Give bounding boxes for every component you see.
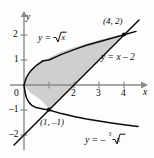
figure-container: y x 0 2 1 –1 –2 2 3 4 y = x y = x – 2 y … [0,0,154,158]
sqrt-curve-label: y = x [38,31,67,44]
cbrt-index: 3 [109,131,112,137]
sqrt-radical: x [53,31,67,44]
cbrt-radicand: x [117,136,121,144]
point-4-2 [122,32,126,36]
x-tick-label-2: 2 [71,89,76,99]
sqrt-radicand: x [61,34,65,42]
x-axis-label: x [143,88,147,98]
y-tick-label-neg1: –1 [9,105,19,115]
y-axis-label: y [26,13,30,23]
cbrt-curve-lhs: y = – [85,135,105,145]
point-label-1-neg1: (1, –1) [40,118,64,127]
y-tick-label-1: 1 [14,55,19,65]
point-label-4-2: (4, 2) [103,17,123,26]
plot-svg [0,0,154,158]
y-tick-label-2: 2 [13,30,18,40]
line-equation-label: y = x – 2 [101,53,135,63]
cbrt-curve-label: y = – 3 x [85,133,126,146]
origin-tick-label: 0 [14,89,19,99]
x-tick-label-4: 4 [121,89,126,99]
sqrt-curve-lhs: y = [38,33,51,43]
y-tick-label-neg2: –2 [9,130,19,140]
point-1-neg1 [47,108,51,112]
cbrt-radical: 3 x [108,133,126,146]
x-tick-label-3: 3 [96,89,101,99]
